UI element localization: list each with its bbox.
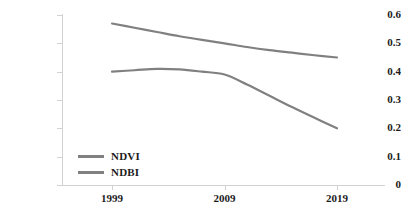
legend-item-ndbi[interactable]: NDBI (78, 164, 140, 180)
series-line-ndbi (112, 69, 337, 129)
legend-swatch-icon (78, 155, 104, 158)
y-tick-mark (57, 185, 62, 186)
legend-item-label: NDBI (111, 166, 139, 178)
series-layer (112, 24, 337, 129)
x-tick-mark (337, 185, 338, 190)
x-tick-mark (225, 185, 226, 190)
chart-figure: NDVI and NDBI value 00.10.20.30.40.50.6 … (0, 0, 401, 214)
legend-item-ndvi[interactable]: NDVI (78, 148, 140, 164)
legend-swatch-icon (78, 171, 104, 174)
x-tick-label: 2009 (195, 193, 255, 204)
legend-item-label: NDVI (111, 150, 140, 162)
x-tick-label: 2019 (307, 193, 367, 204)
chart-legend: NDVINDBI (78, 148, 140, 180)
x-tick-mark (112, 185, 113, 190)
x-tick-label: 1999 (82, 193, 142, 204)
series-line-ndvi (112, 24, 337, 58)
